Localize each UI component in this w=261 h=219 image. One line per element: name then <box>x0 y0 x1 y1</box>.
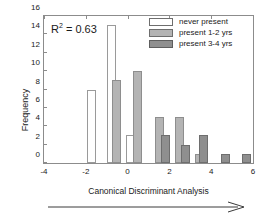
x-axis-label: Canonical Discriminant Analysis <box>43 186 254 196</box>
bar <box>221 154 230 163</box>
bar <box>181 145 190 163</box>
r2-value: = 0.63 <box>63 23 97 35</box>
y-tick-label: 8 <box>18 78 40 86</box>
bar <box>112 80 121 163</box>
bar <box>199 135 208 163</box>
x-tick-mark <box>253 16 254 19</box>
legend-item-never-present: never present <box>149 17 232 26</box>
legend-swatch-present-1-2-yrs <box>149 29 173 37</box>
y-tick-mark <box>44 144 47 145</box>
x-tick-label: -2 <box>82 168 89 176</box>
x-tick-label: 2 <box>167 168 171 176</box>
y-tick-mark <box>44 125 47 126</box>
x-tick-label: 4 <box>209 168 213 176</box>
legend-label-present-3-4-yrs: present 3-4 yrs <box>179 39 232 48</box>
y-tick-mark <box>44 70 47 71</box>
y-tick-label: 14 <box>18 22 40 30</box>
y-axis-label: Frequency <box>20 88 30 131</box>
y-tick-label: 10 <box>18 59 40 67</box>
bar <box>242 154 251 163</box>
legend: never present present 1-2 yrs present 3-… <box>149 17 232 50</box>
x-tick-mark <box>86 16 87 19</box>
legend-label-never-present: never present <box>179 17 228 26</box>
legend-item-present-1-2-yrs: present 1-2 yrs <box>149 28 232 37</box>
y-tick-mark <box>44 52 47 53</box>
direction-arrow-icon <box>48 200 248 214</box>
bar <box>87 90 96 164</box>
y-tick-mark <box>44 89 47 90</box>
y-tick-label: 12 <box>18 41 40 49</box>
x-tick-label: -4 <box>40 168 47 176</box>
legend-swatch-never-present <box>149 18 173 26</box>
bar <box>161 135 170 163</box>
legend-label-present-1-2-yrs: present 1-2 yrs <box>179 28 232 37</box>
legend-item-present-3-4-yrs: present 3-4 yrs <box>149 39 232 48</box>
y-tick-mark <box>44 107 47 108</box>
r2-symbol: R <box>51 23 59 35</box>
x-tick-mark <box>44 16 45 19</box>
legend-swatch-present-3-4-yrs <box>149 40 173 48</box>
bar <box>133 71 142 163</box>
r-squared-annotation: R2 = 0.63 <box>51 22 97 35</box>
y-tick-label: 2 <box>18 133 40 141</box>
x-tick-label: 6 <box>251 168 255 176</box>
y-tick-label: 0 <box>18 151 40 159</box>
y-tick-label: 16 <box>18 4 40 12</box>
figure: 0246810121416-4-20246 Frequency Canonica… <box>0 0 261 219</box>
y-tick-mark <box>44 162 47 163</box>
x-tick-mark <box>128 16 129 19</box>
x-tick-label: 0 <box>125 168 129 176</box>
y-tick-mark <box>44 33 47 34</box>
